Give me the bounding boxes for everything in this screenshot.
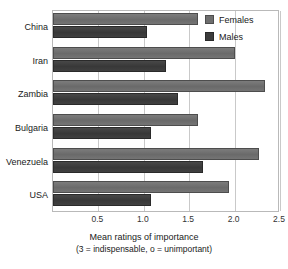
category-label-china: China bbox=[0, 22, 48, 32]
category-label-iran: Iran bbox=[0, 56, 48, 66]
legend-label-females: Females bbox=[219, 15, 254, 25]
x-tick-1.0: 1.0 bbox=[137, 214, 149, 224]
legend-item-females[interactable]: Females bbox=[205, 11, 283, 28]
bar-group bbox=[53, 179, 278, 213]
legend: FemalesMales bbox=[205, 11, 283, 45]
bar-venezuela-males bbox=[53, 161, 203, 173]
bar-bulgaria-males bbox=[53, 127, 151, 139]
bar-group bbox=[53, 146, 278, 180]
x-tick-0.5: 0.5 bbox=[91, 214, 103, 224]
bar-venezuela-females bbox=[53, 148, 259, 160]
x-axis-title: Mean ratings of importance (3 = indispen… bbox=[0, 231, 288, 255]
bar-china-males bbox=[53, 26, 147, 38]
bar-iran-males bbox=[53, 60, 166, 72]
category-label-usa: USA bbox=[0, 190, 48, 200]
bar-usa-males bbox=[53, 194, 151, 206]
bar-iran-females bbox=[53, 47, 235, 59]
category-label-zambia: Zambia bbox=[0, 89, 48, 99]
bar-group bbox=[53, 45, 278, 79]
x-tick-2.5: 2.5 bbox=[273, 214, 285, 224]
bar-zambia-females bbox=[53, 80, 265, 92]
bar-china-females bbox=[53, 13, 198, 25]
x-axis-title-sub: (3 = indispensable, o = unimportant) bbox=[0, 243, 288, 255]
bar-zambia-males bbox=[53, 93, 178, 105]
bar-bulgaria-females bbox=[53, 114, 198, 126]
legend-label-males: Males bbox=[219, 32, 243, 42]
x-tick-1.5: 1.5 bbox=[182, 214, 194, 224]
category-label-bulgaria: Bulgaria bbox=[0, 123, 48, 133]
bar-chart: ChinaIranZambiaBulgariaVenezuelaUSA 0.51… bbox=[0, 0, 288, 269]
x-axis-title-main: Mean ratings of importance bbox=[89, 232, 198, 242]
legend-swatch-icon-females bbox=[205, 15, 214, 24]
x-tick-2.0: 2.0 bbox=[228, 214, 240, 224]
category-label-venezuela: Venezuela bbox=[0, 157, 48, 167]
legend-item-males[interactable]: Males bbox=[205, 28, 283, 45]
bar-usa-females bbox=[53, 181, 229, 193]
legend-swatch-icon-males bbox=[205, 32, 214, 41]
bar-group bbox=[53, 112, 278, 146]
bar-group bbox=[53, 78, 278, 112]
